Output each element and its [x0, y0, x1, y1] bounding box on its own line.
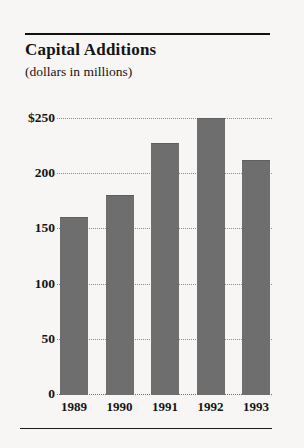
bar-1992	[197, 118, 225, 395]
x-axis-tick-1993: 1993	[234, 400, 278, 413]
bottom-divider-rule	[20, 428, 272, 429]
x-axis-tick-1992: 1992	[189, 400, 233, 413]
y-axis-tick-100: 100	[35, 277, 55, 291]
x-axis-tick-1991: 1991	[143, 400, 187, 413]
plot-area: 050100150200$25019891990199119921993	[0, 0, 304, 448]
y-axis-tick-200: 200	[35, 166, 55, 180]
y-axis-tick-0: 0	[48, 387, 55, 401]
bar-1991	[151, 143, 179, 395]
capital-additions-figure: Capital Additions (dollars in millions) …	[0, 0, 304, 448]
y-axis-tick-150: 150	[35, 221, 55, 235]
x-axis-tick-1989: 1989	[52, 400, 96, 413]
y-axis-tick-50: 50	[42, 332, 56, 346]
bar-1993	[242, 160, 270, 395]
gridline-250	[57, 118, 272, 119]
y-axis-tick-250: $250	[28, 111, 55, 125]
bar-1990	[106, 195, 134, 395]
x-axis-tick-1990: 1990	[98, 400, 142, 413]
bar-1989	[60, 217, 88, 395]
